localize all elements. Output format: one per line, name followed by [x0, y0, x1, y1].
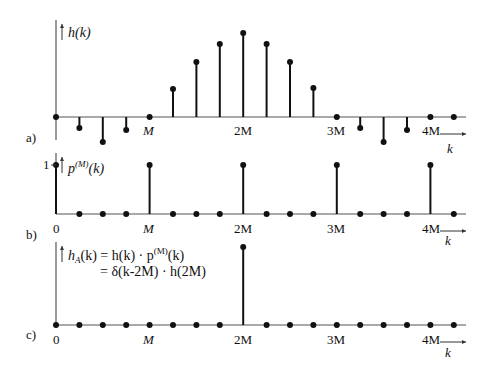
sample-point: [76, 211, 82, 217]
sample-point: [287, 322, 293, 328]
sample-point: [170, 211, 176, 217]
sample-point: [123, 322, 129, 328]
sample-point: [381, 139, 387, 145]
sample-point: [217, 41, 223, 47]
sample-point: [123, 211, 129, 217]
sample-point: [100, 322, 106, 328]
sample-point: [451, 114, 457, 120]
panel-b-ytick-1: 1: [43, 158, 50, 171]
sample-point: [381, 211, 387, 217]
panel-c-tag: c): [26, 328, 36, 341]
formula-rhs-end: (k): [168, 248, 184, 263]
sample-point: [147, 114, 153, 120]
sample-point: [193, 211, 199, 217]
sample-point: [240, 30, 246, 36]
formula-rhs-sup: (M): [154, 246, 168, 256]
sample-point: [193, 59, 199, 65]
panel-b-xlabel: k: [445, 234, 451, 247]
formula-lhs: h: [68, 248, 75, 263]
sample-point: [170, 86, 176, 92]
sample-point: [427, 162, 433, 168]
sample-point: [381, 322, 387, 328]
sample-point: [100, 211, 106, 217]
panel-a-xtick-2M: 2M: [234, 124, 252, 137]
sample-point: [53, 114, 59, 120]
panel-a-ylabel: h(k): [68, 26, 91, 40]
sample-point: [123, 127, 129, 133]
panel-b-xtick-4M: 4M: [422, 222, 440, 235]
panel-a-xtick-4M: 4M: [422, 124, 440, 137]
panel-a-tag: a): [26, 131, 36, 144]
panel-b-tag: b): [26, 228, 37, 241]
panel-b-ylabel-arg: (k): [89, 161, 105, 176]
sample-point: [147, 162, 153, 168]
sample-point: [240, 162, 246, 168]
sample-point: [287, 59, 293, 65]
panel-c-xtick-4M: 4M: [422, 333, 440, 346]
sample-point: [357, 211, 363, 217]
sample-point: [451, 322, 457, 328]
panel-a-stem-plot: [53, 20, 466, 145]
sample-point: [100, 139, 106, 145]
sample-point: [357, 322, 363, 328]
sample-point: [427, 322, 433, 328]
panel-b-ylabel-sup: (M): [75, 159, 89, 169]
sample-point: [404, 211, 410, 217]
panel-a-xtick-3M-text: 3M: [327, 123, 345, 138]
panel-c-xtick-M: M: [143, 333, 154, 346]
panel-a-xtick-4M-text: 4M: [422, 123, 440, 138]
sample-point: [427, 114, 433, 120]
panel-c-xtick-2M: 2M: [234, 333, 252, 346]
sample-point: [193, 322, 199, 328]
panel-b-stem-plot: [51, 153, 466, 233]
panel-a-xtick-2M-text: 2M: [234, 123, 252, 138]
panel-b-xtick-3M: 3M: [327, 222, 345, 235]
panel-b-xtick-2M: 2M: [234, 222, 252, 235]
sample-point: [53, 322, 59, 328]
sample-point: [217, 211, 223, 217]
sample-point: [76, 322, 82, 328]
sample-point: [404, 127, 410, 133]
sample-point: [240, 244, 246, 250]
sample-point: [264, 211, 270, 217]
panel-a-xtick-3M: 3M: [327, 124, 345, 137]
sample-point: [287, 211, 293, 217]
sample-point: [264, 322, 270, 328]
panel-c-formula-line2: = δ(k-2M) · h(2M): [100, 265, 206, 279]
sample-point: [357, 125, 363, 131]
panel-b-xtick-M: M: [143, 222, 154, 235]
panel-c-xtick-3M: 3M: [327, 333, 345, 346]
sample-point: [310, 322, 316, 328]
diagram-canvas: [0, 0, 486, 370]
panel-c-xtick-0: 0: [53, 333, 60, 346]
panel-c-formula-line1: hA(k) = h(k) · p(M)(k): [68, 247, 184, 265]
panel-b-ylabel: p(M)(k): [68, 160, 104, 176]
sample-point: [334, 322, 340, 328]
sample-point: [334, 162, 340, 168]
sample-point: [310, 211, 316, 217]
sample-point: [170, 322, 176, 328]
panel-a-xtick-M: M: [143, 124, 154, 137]
sample-point: [334, 114, 340, 120]
panel-b-ylabel-base: p: [68, 161, 75, 176]
panel-a-xlabel: k: [447, 142, 453, 155]
formula-rhs: (k) = h(k) · p: [81, 248, 154, 263]
sample-point: [404, 322, 410, 328]
panel-b-xtick-0: 0: [53, 222, 60, 235]
sample-point: [264, 41, 270, 47]
panel-c-xlabel: k: [445, 346, 451, 359]
sample-point: [147, 322, 153, 328]
sample-point: [310, 85, 316, 91]
sample-point: [217, 322, 223, 328]
sample-point: [76, 125, 82, 131]
sample-point: [451, 211, 457, 217]
